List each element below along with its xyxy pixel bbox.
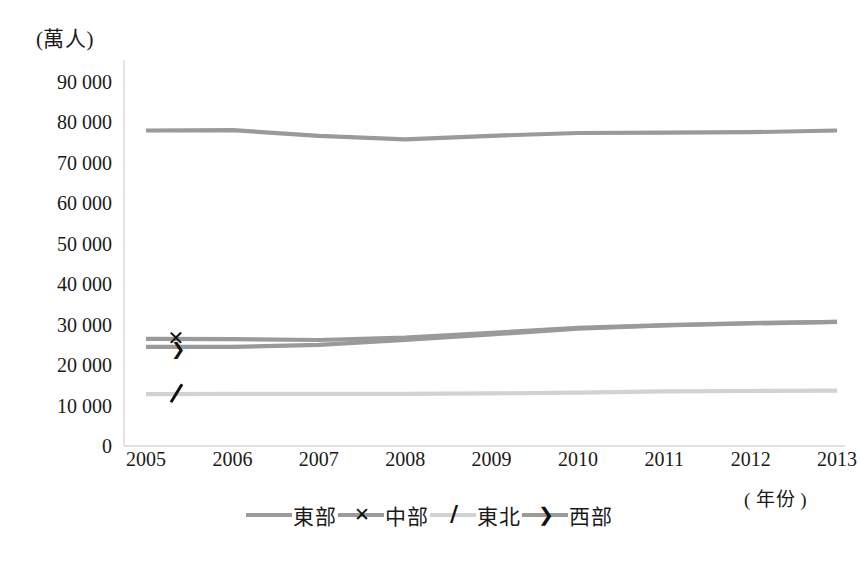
series-line	[146, 322, 837, 347]
series-marker-arrow-icon: ❯	[171, 339, 185, 360]
axis-lines	[124, 60, 845, 446]
series-layer	[146, 130, 837, 394]
x-axis-tick-label: 2010	[558, 449, 598, 469]
legend-item[interactable]: 東部	[246, 500, 338, 530]
legend-marker-line-icon	[246, 505, 292, 525]
x-axis-tick-label: 2009	[472, 449, 512, 469]
series-marker-layer: ✕❯	[168, 326, 186, 402]
legend-marker-arrow-icon: ❯	[522, 505, 568, 525]
series-line	[146, 130, 837, 139]
x-axis-tick-label: 2011	[645, 449, 684, 469]
legend-item[interactable]: ❯西部	[522, 500, 614, 530]
chart-figure: (萬人) 90 00080 00070 00060 00050 00040 00…	[0, 0, 860, 567]
legend-item-label: 東北	[476, 500, 522, 530]
x-axis-tick-label: 2005	[126, 449, 166, 469]
x-axis-tick-label: 2012	[731, 449, 771, 469]
plot-area: ✕❯	[0, 0, 860, 567]
legend-item-label: 東部	[292, 500, 338, 530]
legend-item[interactable]: ∕東北	[430, 500, 522, 530]
legend-marker-slash-icon: ∕	[430, 505, 476, 525]
x-axis-tick-label: 2008	[385, 449, 425, 469]
legend-item[interactable]: ✕中部	[338, 500, 430, 530]
x-axis-tick-label: 2007	[299, 449, 339, 469]
series-line	[146, 391, 837, 395]
x-axis-tick-label: 2013	[817, 449, 857, 469]
legend-marker-x-icon: ✕	[338, 505, 384, 525]
legend-item-label: 中部	[384, 500, 430, 530]
x-axis-tick-label: 2006	[212, 449, 252, 469]
legend-item-label: 西部	[568, 500, 614, 530]
chart-legend: 東部✕中部∕東北❯西部	[0, 500, 860, 530]
